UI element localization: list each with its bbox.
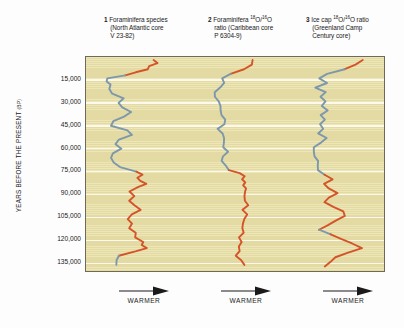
column-header-2: 2 Foraminifera 18O/16O ratio (Caribbean … <box>208 16 300 41</box>
column-header-1: 1 Foraminifera species (North Atlantic c… <box>104 16 200 41</box>
y-axis-ticks: 15,00030,00045,00060,00075,00090,000105,… <box>18 56 81 272</box>
y-tick-label: 60,000 <box>61 144 81 151</box>
warmer-label-3: WARMER <box>300 297 396 304</box>
proxy-curve-panel-2 <box>231 60 253 74</box>
isotope-mid-2: O/ <box>255 16 262 23</box>
arrow-right-icon-1 <box>96 284 192 296</box>
warmer-indicator-3: WARMER <box>300 284 396 304</box>
proxy-curve-panel-2 <box>229 170 248 265</box>
y-tick-label: 45,000 <box>61 121 81 128</box>
arrow-right-icon-2 <box>198 284 294 296</box>
proxy-curve-panel-1 <box>119 172 147 256</box>
column-title-2: Foraminifera <box>213 16 250 23</box>
y-tick-label: 30,000 <box>61 98 81 105</box>
plot-area <box>85 56 385 272</box>
column-subtitle-1a: (North Atlantic core <box>104 24 200 32</box>
warmer-indicator-2: WARMER <box>198 284 294 304</box>
proxy-curve-panel-2 <box>215 74 231 170</box>
column-subtitle-1b: V 23-82) <box>104 32 200 40</box>
proxy-curve-panel-3 <box>345 60 363 69</box>
proxy-curve-panel-3 <box>325 234 362 266</box>
isotope-post-3: O ratio <box>350 16 369 23</box>
warmer-label-2: WARMER <box>198 297 294 304</box>
column-number-3: 3 <box>306 16 310 23</box>
column-title-1: Foraminifera species <box>109 16 167 23</box>
arrow-right-icon-3 <box>300 284 396 296</box>
y-tick-label: 105,000 <box>57 212 81 219</box>
column-number-1: 1 <box>104 16 108 23</box>
proxy-curves <box>86 57 384 271</box>
y-tick-label: 120,000 <box>57 235 81 242</box>
proxy-curve-panel-1 <box>125 60 157 75</box>
column-subtitle-2a: ratio (Caribbean core <box>208 24 300 32</box>
column-subtitle-2b: P 6304-9) <box>208 32 300 40</box>
warmer-label-1: WARMER <box>96 297 192 304</box>
proxy-curve-panel-1 <box>116 256 118 265</box>
proxy-curve-panel-3 <box>314 69 345 174</box>
proxy-curve-panel-3 <box>319 230 331 235</box>
y-tick-label: 75,000 <box>61 166 81 173</box>
y-tick-label: 135,000 <box>57 258 81 265</box>
isotope-post-2: O <box>267 16 272 23</box>
isotope-mid-3: O/ <box>338 16 345 23</box>
column-number-2: 2 <box>208 16 212 23</box>
proxy-curve-panel-3 <box>319 175 345 230</box>
column-subtitle-3a: (Greenland Camp <box>306 24 400 32</box>
column-title-3: Ice cap <box>311 16 333 23</box>
proxy-curve-panel-1 <box>107 75 137 171</box>
y-tick-label: 90,000 <box>61 189 81 196</box>
paleoclimate-proxy-figure: 1 Foraminifera species (North Atlantic c… <box>0 0 404 328</box>
column-subtitle-3b: Century core) <box>306 32 400 40</box>
column-header-3: 3 Ice cap 18O/16O ratio (Greenland Camp … <box>306 16 400 41</box>
y-tick-label: 15,000 <box>61 75 81 82</box>
warmer-indicator-1: WARMER <box>96 284 192 304</box>
